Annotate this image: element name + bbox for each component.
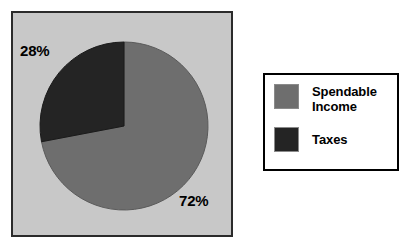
legend-label-spendable-income: Spendable Income — [312, 84, 377, 114]
legend-swatch-taxes — [274, 127, 299, 152]
pie-slice-taxes[interactable] — [40, 42, 124, 142]
plot-area: 28% 72% — [11, 11, 233, 237]
pie-chart-figure: 28% 72% Spendable Income Taxes — [0, 0, 412, 247]
legend-swatch-spendable-income — [274, 84, 299, 109]
legend: Spendable Income Taxes — [263, 73, 399, 171]
legend-label-taxes: Taxes — [312, 132, 347, 147]
legend-item-spendable-income[interactable]: Spendable Income — [274, 84, 377, 114]
pie-label-taxes-percent: 28% — [20, 43, 49, 58]
legend-item-taxes[interactable]: Taxes — [274, 127, 347, 152]
pie-label-spendable-income-percent: 72% — [179, 193, 208, 208]
